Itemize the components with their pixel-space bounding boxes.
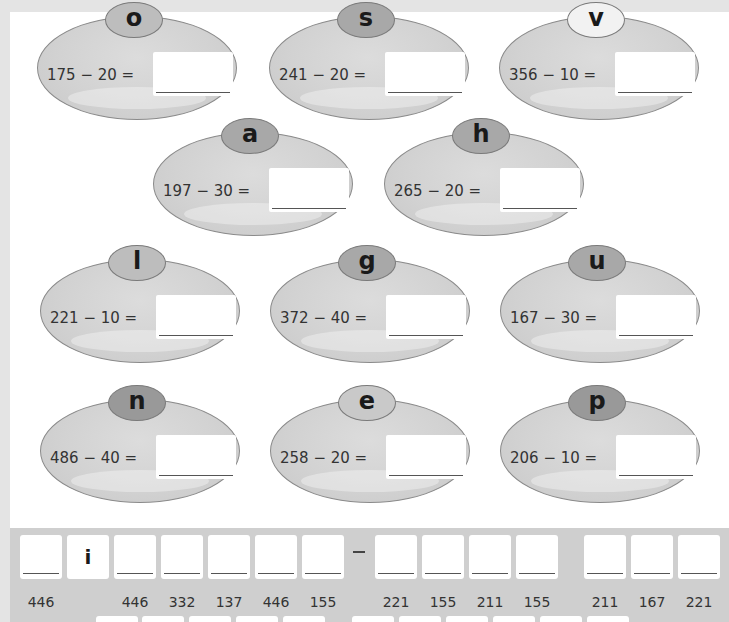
code-cell-row2[interactable]: [540, 616, 582, 622]
code-cell[interactable]: [20, 535, 62, 579]
subtraction-sum: 265 − 20 =: [394, 182, 481, 200]
egg-puzzle-h: h 265 − 20 =: [384, 118, 584, 236]
code-cell[interactable]: [375, 535, 417, 579]
letter-tag: o: [105, 2, 163, 38]
subtraction-sum: 167 − 30 =: [510, 309, 597, 327]
letter-tag: e: [338, 385, 396, 421]
code-cell-row2[interactable]: [446, 616, 488, 622]
egg-puzzle-n: n 486 − 40 =: [40, 385, 240, 503]
code-cell[interactable]: [469, 535, 511, 579]
subtraction-sum: 241 − 20 =: [279, 66, 366, 84]
code-number: 137: [208, 594, 250, 610]
letter-tag: a: [221, 118, 279, 154]
egg-puzzle-p: p 206 − 10 =: [500, 385, 700, 503]
code-number: 167: [631, 594, 673, 610]
code-cell[interactable]: [208, 535, 250, 579]
subtraction-sum: 372 − 40 =: [280, 309, 367, 327]
code-cell-row2[interactable]: [142, 616, 184, 622]
code-cell[interactable]: [302, 535, 344, 579]
code-number: 332: [161, 594, 203, 610]
code-cell[interactable]: [584, 535, 626, 579]
code-cell-row2[interactable]: [587, 616, 629, 622]
answer-box[interactable]: [156, 295, 236, 339]
subtraction-sum: 486 − 40 =: [50, 449, 137, 467]
answer-box[interactable]: [386, 295, 466, 339]
egg-puzzle-e: e 258 − 20 =: [270, 385, 470, 503]
egg-puzzle-u: u 167 − 30 =: [500, 245, 700, 363]
answer-box[interactable]: [500, 168, 580, 212]
code-cell-row2[interactable]: [493, 616, 535, 622]
code-number: 446: [114, 594, 156, 610]
subtraction-sum: 206 − 10 =: [510, 449, 597, 467]
code-number: 221: [375, 594, 417, 610]
answer-box[interactable]: [616, 295, 696, 339]
code-number: 221: [678, 594, 720, 610]
subtraction-sum: 175 − 20 =: [47, 66, 134, 84]
egg-puzzle-a: a 197 − 30 =: [153, 118, 353, 236]
code-cell-row2[interactable]: [283, 616, 325, 622]
code-number: 211: [469, 594, 511, 610]
code-number: 446: [20, 594, 62, 610]
code-number: 155: [516, 594, 558, 610]
code-cell[interactable]: [114, 535, 156, 579]
letter-tag: l: [108, 245, 166, 281]
subtraction-sum: 356 − 10 =: [509, 66, 596, 84]
code-cell[interactable]: [255, 535, 297, 579]
subtraction-sum: 258 − 20 =: [280, 449, 367, 467]
letter-tag: g: [338, 245, 396, 281]
code-number: 446: [255, 594, 297, 610]
egg-puzzle-s: s 241 − 20 =: [269, 2, 469, 120]
letter-tag: n: [108, 385, 166, 421]
code-cell-row2[interactable]: [96, 616, 138, 622]
letter-tag: v: [567, 2, 625, 38]
code-cell-row2[interactable]: [399, 616, 441, 622]
egg-puzzle-o: o 175 − 20 =: [37, 2, 237, 120]
answer-box[interactable]: [269, 168, 349, 212]
letter-tag: p: [568, 385, 626, 421]
word-separator-dash: [353, 551, 365, 553]
letter-tag: s: [337, 2, 395, 38]
code-number: 211: [584, 594, 626, 610]
answer-box[interactable]: [156, 435, 236, 479]
code-cell[interactable]: [516, 535, 558, 579]
code-cell-given: i: [67, 535, 109, 579]
letter-tag: h: [452, 118, 510, 154]
subtraction-sum: 221 − 10 =: [50, 309, 137, 327]
code-cell[interactable]: [422, 535, 464, 579]
answer-box[interactable]: [385, 52, 465, 96]
code-cell-row2[interactable]: [352, 616, 394, 622]
answer-box[interactable]: [616, 435, 696, 479]
egg-puzzle-v: v 356 − 10 =: [499, 2, 699, 120]
code-cell[interactable]: [678, 535, 720, 579]
code-cell[interactable]: [161, 535, 203, 579]
code-cell[interactable]: [631, 535, 673, 579]
code-number: 155: [302, 594, 344, 610]
code-cell-row2[interactable]: [236, 616, 278, 622]
subtraction-sum: 197 − 30 =: [163, 182, 250, 200]
code-number: 155: [422, 594, 464, 610]
letter-tag: u: [568, 245, 626, 281]
answer-box[interactable]: [153, 52, 233, 96]
answer-box[interactable]: [615, 52, 695, 96]
answer-box[interactable]: [386, 435, 466, 479]
code-cell-row2[interactable]: [189, 616, 231, 622]
egg-puzzle-l: l 221 − 10 =: [40, 245, 240, 363]
egg-puzzle-g: g 372 − 40 =: [270, 245, 470, 363]
